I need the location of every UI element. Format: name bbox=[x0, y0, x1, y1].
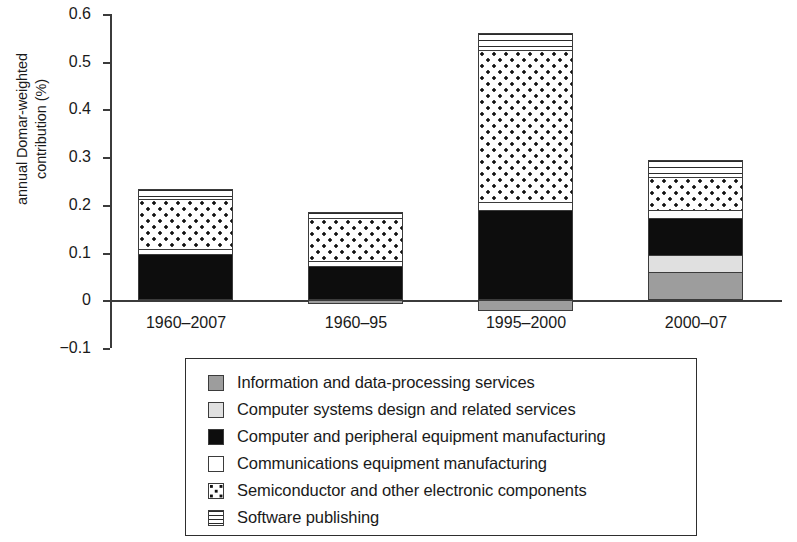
y-tick-1: 0.5 bbox=[103, 62, 110, 64]
y-tick-label-6: 0 bbox=[82, 291, 91, 309]
legend-label-semi: Semiconductor and other electronic compo… bbox=[237, 481, 587, 500]
bar-1995-2000 bbox=[478, 14, 573, 348]
bar-segment-cpe bbox=[478, 210, 573, 301]
legend-item-soft: Software publishing bbox=[208, 504, 696, 531]
y-tick-0: 0.6 bbox=[103, 14, 110, 16]
y-tick-3: 0.3 bbox=[103, 157, 110, 159]
legend-item-semi: Semiconductor and other electronic compo… bbox=[208, 477, 696, 504]
bar-segment-info-negative bbox=[308, 300, 403, 304]
bar-segment-csd bbox=[648, 255, 743, 272]
legend-swatch-communications-equipment-icon bbox=[208, 456, 224, 472]
bar-segment-soft bbox=[308, 212, 403, 218]
y-tick-7: −0.1 bbox=[103, 348, 110, 350]
bar-segment-comm bbox=[478, 202, 573, 209]
x-tick-label-2000-07: 2000–07 bbox=[596, 314, 796, 332]
bar-2000-07 bbox=[648, 14, 743, 348]
bar-segment-soft bbox=[138, 189, 233, 199]
bar-segment-soft bbox=[478, 33, 573, 50]
legend-label-info: Information and data-processing services bbox=[237, 373, 535, 392]
bar-segment-semi bbox=[308, 218, 403, 261]
bar-segment-semi bbox=[478, 50, 573, 203]
legend-swatch-software-publishing-icon bbox=[208, 510, 224, 526]
legend-item-cpe: Computer and peripheral equipment manufa… bbox=[208, 423, 696, 450]
y-axis-title: annual Domar-weighted contribution (%) bbox=[13, 29, 51, 229]
legend-swatch-computer-systems-design-icon bbox=[208, 402, 224, 418]
bar-segment-semi bbox=[648, 177, 743, 210]
bar-1960-95 bbox=[308, 14, 403, 348]
legend-swatch-computer-peripheral-icon bbox=[208, 429, 224, 445]
y-axis-line bbox=[110, 14, 112, 348]
y-tick-label-4: 0.2 bbox=[69, 196, 91, 214]
bar-segment-comm bbox=[138, 249, 233, 254]
bar-segment-info bbox=[648, 272, 743, 300]
bar-segment-comm bbox=[648, 210, 743, 218]
bar-1960-2007 bbox=[138, 14, 233, 348]
legend-item-comm: Communications equipment manufacturing bbox=[208, 450, 696, 477]
y-tick-label-2: 0.4 bbox=[69, 100, 91, 118]
legend-swatch-semiconductor-icon bbox=[208, 483, 224, 499]
bar-segment-semi bbox=[138, 199, 233, 249]
legend-item-info: Information and data-processing services bbox=[208, 369, 696, 396]
y-tick-4: 0.2 bbox=[103, 205, 110, 207]
legend-label-cpe: Computer and peripheral equipment manufa… bbox=[237, 427, 606, 446]
y-tick-label-5: 0.1 bbox=[69, 244, 91, 262]
y-tick-6: 0 bbox=[103, 300, 110, 302]
y-tick-label-7: −0.1 bbox=[59, 339, 91, 357]
legend-label-soft: Software publishing bbox=[237, 508, 379, 527]
chart-figure: annual Domar-weighted contribution (%) 0… bbox=[0, 0, 797, 542]
bar-segment-cpe bbox=[648, 218, 743, 255]
y-tick-label-0: 0.6 bbox=[69, 5, 91, 23]
legend-swatch-information-services-icon bbox=[208, 375, 224, 391]
y-tick-label-1: 0.5 bbox=[69, 53, 91, 71]
legend-label-comm: Communications equipment manufacturing bbox=[237, 454, 547, 473]
legend-label-csd: Computer systems design and related serv… bbox=[237, 400, 576, 419]
y-tick-5: 0.1 bbox=[103, 253, 110, 255]
bar-segment-soft bbox=[648, 160, 743, 177]
bar-segment-info-negative bbox=[478, 300, 573, 310]
bar-segment-comm bbox=[308, 261, 403, 266]
y-tick-2: 0.4 bbox=[103, 109, 110, 111]
legend-item-csd: Computer systems design and related serv… bbox=[208, 396, 696, 423]
bar-segment-cpe bbox=[308, 266, 403, 300]
y-tick-label-3: 0.3 bbox=[69, 148, 91, 166]
chart-legend: Information and data-processing services… bbox=[185, 358, 697, 536]
plot-area: 0.6 0.5 0.4 0.3 0.2 0.1 0 −0.1 1960–2007… bbox=[110, 14, 782, 350]
bar-segment-cpe bbox=[138, 254, 233, 300]
